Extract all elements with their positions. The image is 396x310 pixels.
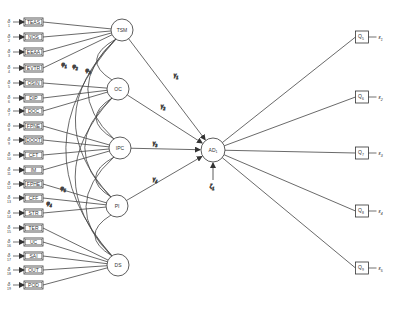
indicator-label: DOC — [28, 108, 40, 114]
latent-label: IPC — [116, 145, 125, 151]
indicator-osin: OSINδ5 — [8, 79, 43, 89]
sem-path-diagram: φ1φ2φ3φ4φ5 TEASδ1NOSδ2EEAAδ3EVTRδ4OSINδ5… — [0, 0, 396, 310]
indicator-label: SAI — [29, 253, 37, 259]
outcome-loading — [224, 155, 355, 211]
covariance-oc-ipc — [96, 98, 114, 139]
indicator-str: STRδ14 — [7, 209, 43, 219]
path-oc-ad — [127, 95, 202, 143]
covariance-tsm-ds — [66, 39, 116, 256]
error-term-subscript: 13 — [7, 200, 11, 204]
latent-ad: AD1 — [201, 138, 225, 162]
error-term-subscript: 4 — [8, 70, 10, 74]
indicator-label: FPHE — [27, 181, 41, 187]
indicator-label: CFT — [29, 152, 39, 158]
indicator-doc: DOCδ7 — [8, 107, 43, 117]
indicator-doot: DOOTδ9 — [8, 136, 43, 146]
covariance-curves: φ1φ2φ3φ4φ5 — [46, 39, 116, 256]
outcome-q6: Q6ε2 — [224, 91, 382, 146]
indicator-teas: TEASδ1 — [8, 18, 43, 28]
error-term-subscript: 14 — [7, 215, 11, 219]
error-term-subscript: 15 — [7, 230, 11, 234]
latent-label: OC — [114, 86, 122, 92]
indicator-im: IMδ11 — [7, 166, 43, 176]
indicator-label: DIP — [29, 95, 38, 101]
outcome-q5: Q5ε1 — [222, 31, 382, 143]
error-term-subscript: 8 — [8, 128, 10, 132]
error-term-subscript: 2 — [8, 39, 10, 43]
error-term-subscript: 16 — [7, 244, 11, 248]
indicator-label: OUT — [28, 267, 39, 273]
path-coefficient-gamma: γ3 — [153, 140, 158, 148]
covariance-label-phi: φ5 — [60, 185, 65, 193]
error-term-subscript: 7 — [8, 113, 10, 117]
path-coefficient-gamma: γ2 — [161, 103, 166, 111]
outcome-error-epsilon: ε2 — [379, 94, 383, 102]
latent-ds: DS — [107, 254, 129, 276]
indicator-label: DOOT — [26, 137, 40, 143]
error-term-subscript: 12 — [7, 186, 11, 190]
covariance-label-phi: φ4 — [46, 200, 51, 208]
indicator-label: TEAS — [27, 19, 41, 25]
outcome-loading — [225, 150, 356, 153]
indicator-label: NOS — [28, 34, 40, 40]
outcome-error-epsilon: ε3 — [379, 150, 383, 158]
path-coefficient-gamma: γ4 — [153, 176, 158, 184]
path-pi-ad — [127, 157, 202, 201]
indicator-evtr: EVTRδ4 — [8, 64, 43, 74]
outcome-indicators: Q5ε1Q6ε2Q7ε3Q8ε4Q9ε5 — [222, 31, 382, 274]
error-term-subscript: 17 — [7, 258, 11, 262]
error-term-subscript: 6 — [8, 100, 10, 104]
indicator-label: TER — [29, 225, 39, 231]
outcome-error-epsilon: ε4 — [379, 208, 383, 216]
latent-circles: TSMOCIPCPIDSAD1 — [106, 19, 225, 276]
covariance-label-phi: φ3 — [85, 67, 90, 75]
latent-label: TSM — [117, 27, 128, 33]
indicator-label: STR — [29, 210, 39, 216]
path-tsm-ad — [129, 39, 205, 140]
indicator-label: CFF — [29, 195, 39, 201]
indicator-uc: UCδ16 — [7, 238, 43, 248]
error-term-subscript: 5 — [8, 85, 10, 89]
covariance-pi-ds — [95, 215, 112, 256]
indicator-label: IM — [31, 167, 37, 173]
structural-paths: γ1γ2γ3γ4ζ1 — [127, 39, 215, 201]
latent-label: DS — [115, 262, 123, 268]
covariance-label-phi: φ1 — [61, 61, 66, 69]
outcome-error-epsilon: ε1 — [379, 34, 383, 42]
outcome-q7: Q7ε3 — [225, 147, 383, 159]
latent-ipc: IPC — [109, 137, 131, 159]
indicator-label: OSIN — [27, 80, 40, 86]
path-ipc-ad — [131, 148, 200, 149]
indicator-label: EEAA — [27, 49, 41, 55]
indicator-fpne: FPNEδ8 — [8, 122, 43, 132]
latent-oc: OC — [107, 78, 129, 100]
latent-label: PI — [115, 203, 120, 209]
indicator-label: POD — [28, 282, 39, 288]
error-term-subscript: 9 — [8, 142, 10, 146]
error-term-subscript: 18 — [7, 272, 11, 276]
indicator-fphe: FPHEδ12 — [7, 180, 43, 190]
disturbance-zeta: ζ1 — [210, 183, 214, 191]
indicator-cff: CFFδ13 — [7, 194, 43, 204]
outcome-loading — [222, 158, 355, 268]
covariance-label-phi: φ2 — [72, 63, 77, 71]
indicator-dip: DIPδ6 — [8, 94, 43, 104]
indicator-sai: SAIδ17 — [7, 252, 43, 262]
indicator-pod: PODδ19 — [7, 281, 43, 291]
latent-pi: PI — [106, 195, 128, 217]
error-term-subscript: 3 — [8, 54, 10, 58]
indicator-cft: CFTδ10 — [7, 151, 43, 161]
indicator-eeaa: EEAAδ3 — [8, 48, 43, 58]
indicator-out: OUTδ18 — [7, 266, 43, 276]
path-coefficient-gamma: γ1 — [174, 72, 179, 80]
error-term-subscript: 10 — [7, 157, 11, 161]
error-term-subscript: 11 — [7, 172, 11, 176]
error-term-subscript: 1 — [8, 24, 10, 28]
indicator-label: FPNE — [27, 123, 41, 129]
indicator-label: EVTR — [27, 65, 41, 71]
indicator-ter: TERδ15 — [7, 224, 43, 234]
latent-tsm: TSM — [111, 19, 133, 41]
indicator-label: UC — [30, 239, 38, 245]
outcome-q8: Q8ε4 — [224, 155, 383, 217]
indicator-boxes: TEASδ1NOSδ2EEAAδ3EVTRδ4OSINδ5DIPδ6DOCδ7F… — [7, 18, 43, 291]
